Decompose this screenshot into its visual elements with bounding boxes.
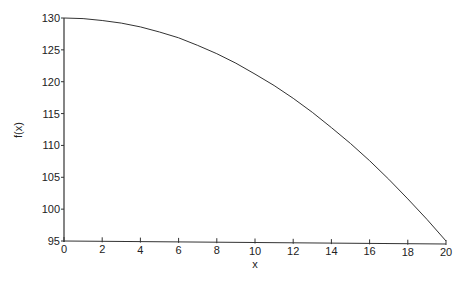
y-axis: 95100105110115120125130 (42, 12, 64, 247)
series-line-f-x (64, 18, 446, 241)
y-tick-label: 95 (48, 235, 60, 247)
x-tick-label: 6 (176, 244, 182, 256)
y-tick-label: 110 (42, 139, 60, 151)
x-tick-label: 8 (214, 244, 220, 256)
y-tick-label: 100 (42, 203, 60, 215)
x-tick-label: 14 (325, 245, 337, 257)
x-tick-label: 18 (402, 246, 414, 258)
x-tick-label: 2 (99, 243, 105, 255)
x-tick-label: 10 (249, 245, 261, 257)
y-tick-label: 125 (42, 44, 60, 56)
x-tick-label: 0 (61, 243, 67, 255)
x-axis: 02468101214161820 (61, 237, 452, 258)
line-chart: 95100105110115120125130 0246810121416182… (0, 0, 475, 282)
y-tick-label: 130 (42, 12, 60, 24)
x-tick-label: 20 (440, 246, 452, 258)
y-axis-label: f(x) (12, 122, 24, 138)
y-tick-label: 120 (42, 76, 60, 88)
y-tick-label: 105 (42, 171, 60, 183)
y-tick-label: 115 (42, 108, 60, 120)
x-tick-label: 4 (137, 244, 143, 256)
x-axis-label: x (252, 258, 258, 270)
x-tick-label: 12 (287, 245, 299, 257)
x-tick-label: 16 (363, 245, 375, 257)
